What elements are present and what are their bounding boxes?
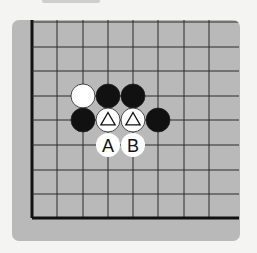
white-stone (71, 84, 95, 108)
black-stone (96, 84, 120, 108)
black-stone (121, 84, 145, 108)
board-grid: AB (12, 20, 240, 241)
top-tab (42, 0, 100, 3)
black-stone (71, 108, 95, 132)
black-stone (146, 108, 170, 132)
point-label-a: A (102, 136, 114, 156)
go-board: AB (12, 20, 240, 241)
point-label-b: B (127, 136, 139, 156)
